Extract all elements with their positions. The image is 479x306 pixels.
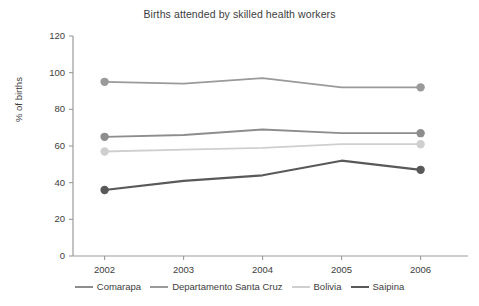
legend-line-icon [75, 286, 93, 288]
axis-lines [73, 36, 468, 256]
series-marker [100, 78, 108, 86]
y-axis-tick-label: 60 [31, 141, 65, 151]
x-axis-tick-label: 2002 [80, 265, 130, 275]
legend-label: Bolivia [314, 281, 342, 292]
series-line [105, 78, 421, 87]
legend-label: Comarapa [97, 281, 141, 292]
series-marker [100, 147, 108, 155]
series-marker [100, 133, 108, 141]
series-marker [416, 83, 424, 91]
legend-item[interactable]: Saipina [351, 281, 405, 292]
y-axis-tick-label: 0 [31, 251, 65, 261]
chart-title: Births attended by skilled health worker… [0, 8, 479, 20]
x-axis-tick-label: 2003 [159, 265, 209, 275]
legend-line-icon [292, 286, 310, 288]
data-series [100, 161, 424, 195]
data-series [100, 78, 424, 92]
y-axis-tick-label: 40 [31, 178, 65, 188]
series-marker [416, 129, 424, 137]
plot-area [0, 0, 479, 306]
series-line [105, 161, 421, 190]
y-axis-tick-label: 20 [31, 214, 65, 224]
x-axis-tick-label: 2004 [238, 265, 288, 275]
legend-item[interactable]: Departamento Santa Cruz [150, 281, 282, 292]
legend-label: Departamento Santa Cruz [172, 281, 282, 292]
y-axis-label: % of births [13, 77, 24, 122]
x-axis-tick-label: 2005 [317, 265, 367, 275]
x-axis-tick-label: 2006 [396, 265, 446, 275]
legend-item[interactable]: Bolivia [292, 281, 342, 292]
series-line [105, 144, 421, 151]
chart-legend: ComarapaDepartamento Santa CruzBoliviaSa… [0, 281, 479, 292]
data-series-group [100, 78, 424, 195]
series-marker [416, 140, 424, 148]
series-line [105, 130, 421, 137]
y-axis-tick-label: 120 [31, 31, 65, 41]
legend-item[interactable]: Comarapa [75, 281, 141, 292]
series-marker [100, 186, 108, 194]
y-axis-tick-label: 80 [31, 104, 65, 114]
legend-label: Saipina [373, 281, 405, 292]
legend-line-icon [351, 286, 369, 288]
series-marker [416, 166, 424, 174]
data-series [100, 129, 424, 141]
y-axis-tick-label: 100 [31, 68, 65, 78]
data-series [100, 140, 424, 156]
line-chart: Births attended by skilled health worker… [0, 0, 479, 306]
legend-line-icon [150, 286, 168, 288]
